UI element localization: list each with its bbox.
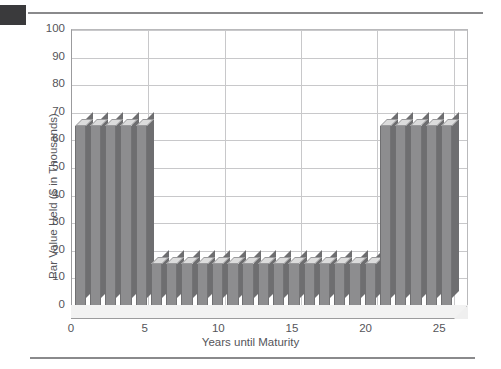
bar-front-face	[258, 264, 269, 305]
bar-front-face	[426, 126, 437, 305]
bar-year-20	[365, 264, 376, 305]
bar-front-face	[304, 264, 315, 305]
bar-front-face	[181, 264, 192, 305]
bar-side-face	[452, 112, 459, 298]
bar-year-14	[273, 264, 284, 305]
bar-front-face	[380, 126, 391, 305]
bar-chart: 0102030405060708090100 0510152025 Par Va…	[0, 0, 501, 369]
bar-front-face	[273, 264, 284, 305]
chart-page: 0102030405060708090100 0510152025 Par Va…	[0, 0, 501, 369]
bar-year-5	[136, 126, 147, 305]
bar-front-face	[365, 264, 376, 305]
bar-front-face	[410, 126, 421, 305]
bar-front-face	[334, 264, 345, 305]
chart-floor-edge	[71, 318, 454, 319]
bar-front-face	[105, 126, 116, 305]
bar-year-1	[75, 126, 86, 305]
x-tick-label-20: 20	[346, 323, 386, 335]
bar-year-16	[304, 264, 315, 305]
y-tick-label-0: 0	[25, 299, 65, 311]
bar-front-face	[151, 264, 162, 305]
chart-floor	[71, 305, 468, 319]
bar-year-10	[212, 264, 223, 305]
bar-year-18	[334, 264, 345, 305]
bar-year-13	[258, 264, 269, 305]
bar-year-11	[227, 264, 238, 305]
bar-front-face	[395, 126, 406, 305]
bar-front-face	[90, 126, 101, 305]
bar-year-4	[120, 126, 131, 305]
bar-front-face	[349, 264, 360, 305]
x-tick-label-5: 5	[125, 323, 165, 335]
bar-year-7	[166, 264, 177, 305]
x-axis-label: Years until Maturity	[0, 336, 501, 348]
bar-year-21	[380, 126, 391, 305]
bar-year-3	[105, 126, 116, 305]
y-axis-label: Par Value Held ($ in Thousands)	[47, 81, 59, 311]
bar-year-19	[349, 264, 360, 305]
bar-front-face	[136, 126, 147, 305]
y-axis-label-wrap: Par Value Held ($ in Thousands)	[30, 40, 44, 270]
bar-year-6	[151, 264, 162, 305]
y-tick-label-100: 100	[25, 23, 65, 35]
x-tick-label-15: 15	[272, 323, 312, 335]
bar-year-9	[197, 264, 208, 305]
bar-front-face	[212, 264, 223, 305]
bar-front-face	[441, 126, 452, 305]
x-tick-label-25: 25	[419, 323, 459, 335]
bar-front-face	[288, 264, 299, 305]
bar-year-24	[426, 126, 437, 305]
bar-front-face	[166, 264, 177, 305]
bar-front-face	[319, 264, 330, 305]
bar-year-23	[410, 126, 421, 305]
bar-year-12	[242, 264, 253, 305]
bar-year-17	[319, 264, 330, 305]
x-tick-label-10: 10	[198, 323, 238, 335]
bar-year-8	[181, 264, 192, 305]
x-tick-label-0: 0	[51, 323, 91, 335]
bar-front-face	[197, 264, 208, 305]
bar-year-22	[395, 126, 406, 305]
bar-series	[71, 29, 468, 305]
bar-year-25	[441, 126, 452, 305]
bar-year-15	[288, 264, 299, 305]
bar-front-face	[227, 264, 238, 305]
bar-year-2	[90, 126, 101, 305]
bar-front-face	[75, 126, 86, 305]
y-tick-label-10: 10	[25, 271, 65, 283]
bar-front-face	[120, 126, 131, 305]
bar-front-face	[242, 264, 253, 305]
